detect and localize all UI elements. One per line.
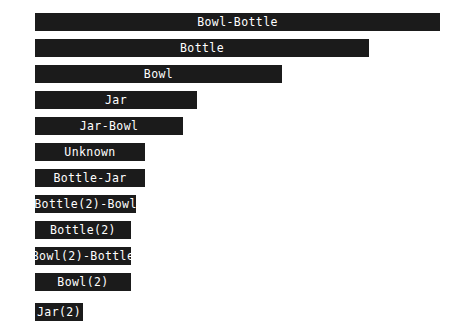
horizontal-bar-chart: 62Bowl-Bottle53Bottle20Bowl8Jar6Jar-Bowl…	[0, 0, 457, 336]
bar: Bowl-Bottle	[35, 13, 440, 31]
bar-row: 20Bowl	[0, 65, 282, 83]
bar-row: 2Bottle(2)	[0, 221, 131, 239]
bar-category-label: Jar(2)	[37, 303, 81, 321]
bar-row: 6Jar-Bowl	[0, 117, 183, 135]
bar-category-label: Bottle(2)-Bowl	[35, 195, 136, 213]
bar-category-label: Jar	[105, 91, 127, 109]
bar: Bowl	[35, 65, 282, 83]
bar: Bowl(2)	[35, 273, 131, 291]
bar-category-label: Bowl(2)	[57, 273, 108, 291]
bar: Jar(2)	[35, 303, 83, 321]
bar: Bottle(2)-Bowl	[35, 195, 136, 213]
bar-row: 2Bowl(2)-Bottle	[0, 247, 131, 265]
bar: Jar-Bowl	[35, 117, 183, 135]
bar-row: 4Bottle-Jar	[0, 169, 145, 187]
bar-category-label: Bottle(2)	[50, 221, 116, 239]
bar-row: 53Bottle	[0, 39, 369, 57]
bar-row: 4Unknown	[0, 143, 145, 161]
bar-category-label: Bowl	[144, 65, 173, 83]
bar-category-label: Bottle-Jar	[53, 169, 126, 187]
bar-row: 62Bowl-Bottle	[0, 13, 440, 31]
bar-category-label: Bowl-Bottle	[197, 13, 278, 31]
bar: Unknown	[35, 143, 145, 161]
bar-category-label: Bowl(2)-Bottle	[35, 247, 131, 265]
bar-row: 3Bottle(2)-Bowl	[0, 195, 136, 213]
bar: Bottle	[35, 39, 369, 57]
bar: Bottle(2)	[35, 221, 131, 239]
bar-row: 2Bowl(2)	[0, 273, 131, 291]
bar: Bowl(2)-Bottle	[35, 247, 131, 265]
bar-category-label: Unknown	[64, 143, 115, 161]
bar: Jar	[35, 91, 197, 109]
bar-row: 1Jar(2)	[0, 303, 83, 321]
bar: Bottle-Jar	[35, 169, 145, 187]
bar-row: 8Jar	[0, 91, 197, 109]
bar-category-label: Jar-Bowl	[80, 117, 139, 135]
bar-category-label: Bottle	[180, 39, 224, 57]
